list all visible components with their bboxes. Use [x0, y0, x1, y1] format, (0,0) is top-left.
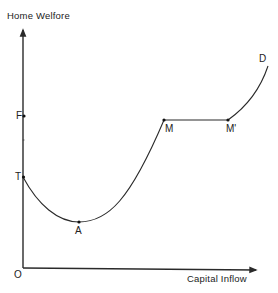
- point-t-label: T: [15, 172, 21, 182]
- point-mprime-label: M': [226, 124, 236, 134]
- y-axis-label: Home Welfore: [7, 11, 70, 21]
- point-m-label: M: [165, 124, 173, 134]
- welfare-curve-mprime-d: [228, 66, 268, 120]
- point-a-dot: [77, 220, 80, 223]
- point-mprime-dot: [226, 118, 229, 121]
- point-f-label: F: [16, 111, 22, 121]
- point-d-label: D: [259, 54, 266, 64]
- point-t-dot: [22, 175, 25, 178]
- point-m-dot: [162, 118, 165, 121]
- x-axis-label: Capital Inflow: [187, 274, 247, 284]
- y-tick: [23, 139, 25, 141]
- welfare-diagram: [0, 0, 278, 293]
- x-axis: [23, 268, 256, 270]
- welfare-curve-t-a-m: [23, 120, 164, 222]
- point-a-label: A: [75, 226, 82, 236]
- origin-label: O: [14, 270, 22, 280]
- point-f-dot: [22, 114, 25, 117]
